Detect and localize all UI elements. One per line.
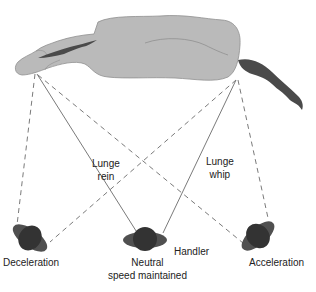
acceleration-label: Acceleration: [249, 256, 304, 269]
handlers: [6, 213, 282, 260]
neutral-label: Neutral speed maintained: [108, 256, 187, 282]
horse-body: [15, 16, 240, 81]
handler-deceleration: [6, 216, 54, 260]
line-tail-to-acceleration: [238, 80, 268, 218]
lunge-whip-label: Lunge whip: [206, 155, 234, 181]
horse: [15, 16, 302, 110]
lunge-rein-label: Lunge rein: [92, 157, 120, 183]
lunge-rein-line: [37, 74, 138, 234]
diagram-canvas: [0, 0, 316, 292]
line-head-to-deceleration: [17, 74, 35, 225]
deceleration-label: Deceleration: [3, 256, 59, 269]
handler-acceleration: [234, 213, 281, 259]
horse-tail: [238, 59, 303, 110]
handler-neutral: [123, 227, 167, 251]
